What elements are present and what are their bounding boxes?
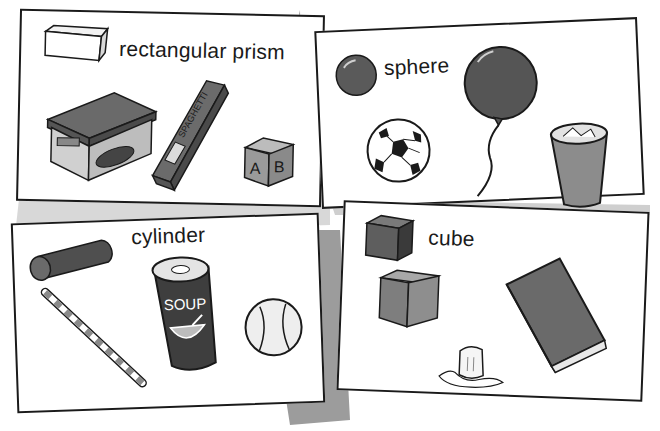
cube-shape-icon (363, 213, 417, 263)
card-title-cylinder: cylinder (131, 223, 206, 250)
svg-text:A: A (250, 160, 261, 177)
card-cylinder: cylinder SOUP (11, 213, 325, 414)
trash-can-icon (547, 120, 615, 209)
sphere-shape-icon (333, 52, 381, 100)
balloon-icon (455, 43, 546, 207)
alphabet-block-icon: A B (240, 135, 297, 188)
card-title-rectangular-prism: rectangular prism (119, 37, 285, 64)
card-title-sphere: sphere (383, 53, 449, 80)
baseball-icon (242, 295, 306, 359)
soccer-ball-icon (364, 116, 433, 185)
card-sphere: sphere (314, 17, 644, 209)
spaghetti-box-icon: SPAGHETTI (150, 76, 232, 196)
shoe-box-icon (44, 89, 158, 183)
wooden-block-icon (377, 268, 443, 330)
card-cube: cube (336, 200, 649, 402)
svg-text:B: B (274, 158, 285, 175)
book-icon (499, 254, 614, 378)
card-title-cube: cube (428, 225, 475, 251)
soup-can-icon: SOUP (150, 254, 224, 376)
card-rectangular-prism: rectangular prism SPAGHETTI A B (16, 9, 325, 207)
straw-icon (39, 283, 153, 397)
cylinder-shape-icon (25, 236, 116, 281)
ice-cube-icon (435, 340, 509, 391)
rectangular-prism-shape-icon (43, 23, 110, 62)
soup-label: SOUP (163, 295, 206, 313)
